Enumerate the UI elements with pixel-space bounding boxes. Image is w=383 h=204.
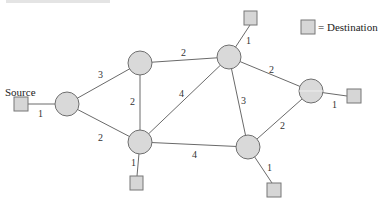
weight-D-F: 2 (280, 120, 285, 131)
weight-C-F: 3 (241, 95, 246, 106)
weight-B-C: 2 (181, 47, 186, 58)
weight-E-F: 4 (192, 149, 197, 160)
edge-E-C (140, 57, 229, 142)
edge-weight-labels: 1 3 2 2 2 4 3 2 2 4 1 1 1 1 (38, 35, 337, 173)
node-E (128, 130, 152, 154)
edge-E-F (140, 142, 248, 147)
node-B (128, 51, 152, 75)
node-A (55, 92, 79, 116)
cropped-caption (6, 0, 110, 3)
weight-E-C: 4 (179, 88, 184, 99)
weight-B-E: 2 (130, 96, 135, 107)
source-label: Source (5, 86, 36, 98)
source-square (14, 97, 28, 111)
nodes (55, 45, 323, 159)
legend-destination-square (301, 20, 315, 34)
weight-F-dest: 1 (267, 162, 272, 173)
edge-D-F (248, 91, 311, 147)
destination-square-D (347, 89, 361, 103)
weight-C-dest: 1 (246, 35, 251, 46)
weight-source-A: 1 (38, 108, 43, 119)
destination-square-E (130, 176, 143, 190)
weight-A-E: 2 (98, 132, 103, 143)
legend: = Destination (301, 20, 378, 34)
node-C (217, 45, 241, 69)
legend-destination-label: = Destination (318, 21, 378, 33)
weight-D-dest: 1 (332, 99, 337, 110)
weight-E-dest: 1 (131, 157, 136, 168)
node-F (236, 135, 260, 159)
destination-square-F (267, 183, 281, 197)
weight-A-B: 3 (98, 69, 103, 80)
destination-square-C (244, 11, 257, 25)
weight-C-D: 2 (269, 64, 274, 75)
network-diagram: Source = Destination 1 3 2 2 2 4 3 2 2 4… (0, 0, 383, 204)
